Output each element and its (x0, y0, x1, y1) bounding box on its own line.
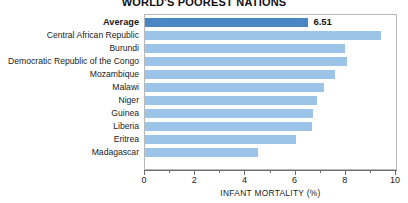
x-tick-label: 0 (141, 175, 146, 185)
category-label: Average (103, 16, 139, 29)
category-label: Madagascar (92, 146, 139, 159)
bar (145, 44, 345, 53)
bar-row: 6.51 (145, 16, 396, 29)
bar (145, 148, 258, 157)
bar-row (145, 81, 396, 94)
x-axis-line (144, 170, 397, 171)
bar-row (145, 55, 396, 68)
x-tick-minor (320, 170, 321, 173)
category-label: Liberia (113, 120, 139, 133)
bar (145, 31, 381, 40)
category-label: Guinea (111, 107, 139, 120)
bar-row (145, 68, 396, 81)
x-tick-label: 8 (342, 175, 347, 185)
category-label: Eritrea (114, 133, 139, 146)
bar (145, 135, 296, 144)
bar-row (145, 133, 396, 146)
x-axis-title: INFANT MORTALITY (%) (144, 188, 397, 198)
bar (145, 70, 335, 79)
category-label: Central African Republic (47, 29, 139, 42)
x-tick-minor (270, 170, 271, 173)
x-tick-label: 10 (390, 175, 400, 185)
bar-row (145, 42, 396, 55)
chart-title: WORLD'S POOREST NATIONS (0, 0, 408, 8)
bar-value-label: 6.51 (313, 16, 332, 29)
category-label: Democratic Republic of the Congo (8, 55, 139, 68)
category-label: Mozambique (90, 68, 139, 81)
category-label: Malawi (112, 81, 139, 94)
category-axis: AverageCentral African RepublicBurundiDe… (0, 15, 142, 170)
bar-chart: WORLD'S POOREST NATIONS AverageCentral A… (0, 0, 408, 203)
x-tick-label: 6 (292, 175, 297, 185)
x-axis: 0246810 (144, 170, 397, 182)
category-label: Niger (118, 94, 139, 107)
bar (145, 18, 308, 27)
bar-row (145, 94, 396, 107)
x-tick-minor (169, 170, 170, 173)
bar (145, 122, 312, 131)
bar (145, 57, 347, 66)
x-tick-minor (219, 170, 220, 173)
bar (145, 83, 324, 92)
bar-row (145, 146, 396, 159)
x-tick-minor (370, 170, 371, 173)
bar (145, 96, 317, 105)
x-tick-label: 2 (192, 175, 197, 185)
category-label: Burundi (109, 42, 139, 55)
plot-area: 6.51 (144, 14, 397, 170)
x-tick-label: 4 (242, 175, 247, 185)
bar-row (145, 29, 396, 42)
bar-row (145, 120, 396, 133)
bar-row (145, 107, 396, 120)
bar (145, 109, 313, 118)
